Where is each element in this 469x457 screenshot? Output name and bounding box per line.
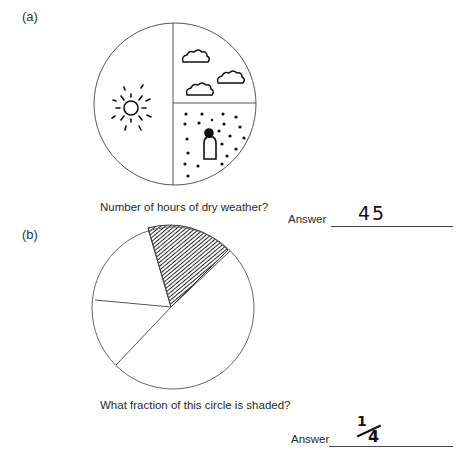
clouds-icon [183, 50, 245, 95]
sun-icon [112, 85, 151, 130]
question-b: What fraction of this circle is shaded? [100, 399, 290, 411]
figures-canvas [0, 0, 469, 457]
answer-label-a: Answer [288, 213, 326, 225]
shaded-circle [92, 225, 254, 389]
answer-denominator-b: 4 [368, 427, 379, 446]
answer-numerator-b: 1 [357, 413, 367, 429]
answer-label-b: Answer [291, 433, 329, 445]
part-b-label: (b) [22, 227, 38, 242]
answer-line-b[interactable] [329, 446, 453, 447]
weather-pie-chart [94, 23, 256, 185]
answer-fraction-b: 1 4 [352, 417, 384, 449]
answer-value-a: 45 [358, 202, 386, 224]
answer-line-a[interactable] [331, 226, 453, 227]
shaded-sector [148, 225, 228, 307]
question-a: Number of hours of dry weather? [100, 201, 268, 213]
rain-person-icon [183, 112, 245, 177]
